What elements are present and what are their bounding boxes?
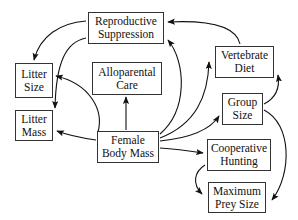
node-alloparental-care: Alloparental Care <box>92 62 162 95</box>
node-label-line2: Suppression <box>98 28 154 41</box>
node-label-line2: Prey Size <box>215 198 259 211</box>
edge-female-body-mass-to-litter-mass <box>57 131 96 140</box>
node-label-line1: Group <box>228 96 257 109</box>
node-label-line2: Mass <box>22 126 46 139</box>
node-label-line1: Female <box>111 134 145 147</box>
edge-female-body-mass-to-reproductive-suppression <box>160 40 181 134</box>
node-label-line1: Alloparental <box>98 66 155 79</box>
edge-group-size-to-vertebrate-diet <box>264 75 278 104</box>
node-label-line2: Hunting <box>220 155 258 168</box>
node-label-line2: Body Mass <box>102 147 154 160</box>
node-group-size: Group Size <box>222 93 263 125</box>
node-label-line1: Maximum <box>213 185 261 198</box>
node-reproductive-suppression: Reproductive Suppression <box>88 12 164 44</box>
node-label-line2: Size <box>24 81 44 94</box>
node-label-line1: Litter <box>21 113 47 126</box>
node-label-line2: Care <box>116 79 138 92</box>
causal-diagram: Reproductive Suppression Litter Size All… <box>0 0 298 220</box>
edge-cooperative-hunting-to-maximum-prey-size <box>196 165 205 194</box>
node-vertebrate-diet: Vertebrate Diet <box>215 46 274 78</box>
node-label-line1: Litter <box>21 68 47 81</box>
node-cooperative-hunting: Cooperative Hunting <box>207 139 271 171</box>
edge-reproductive-suppression-to-litter-mass <box>55 38 86 108</box>
node-litter-size: Litter Size <box>15 63 53 98</box>
edge-female-body-mass-to-group-size <box>160 116 219 141</box>
node-label-line1: Vertebrate <box>221 49 268 62</box>
node-label-line2: Diet <box>235 62 255 75</box>
node-label-line1: Reproductive <box>95 15 157 28</box>
node-maximum-prey-size: Maximum Prey Size <box>208 182 266 213</box>
node-label-line2: Size <box>233 109 253 122</box>
edge-vertebrate-diet-to-reproductive-suppression <box>168 22 240 44</box>
node-female-body-mass: Female Body Mass <box>97 131 159 163</box>
node-label-line1: Cooperative <box>211 142 267 155</box>
edge-female-body-mass-to-cooperative-hunting <box>160 148 203 153</box>
node-litter-mass: Litter Mass <box>15 110 53 141</box>
